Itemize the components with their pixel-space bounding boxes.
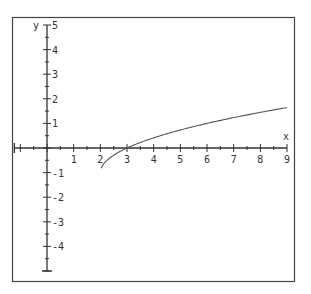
x-tick-label: 8 (257, 154, 263, 165)
y-tick-label: 3 (52, 69, 58, 80)
x-tick-label: 1 (71, 154, 77, 165)
y-tick-label: -3 (52, 217, 64, 228)
y-tick-label: 1 (52, 118, 58, 129)
x-tick-label: 9 (284, 154, 290, 165)
y-tick-label: 4 (52, 45, 58, 56)
y-tick-label: 5 (52, 20, 58, 31)
x-tick-label: 2 (97, 154, 103, 165)
x-tick-label: 5 (177, 154, 183, 165)
x-axis-label: x (283, 131, 289, 142)
y-tick-label: 2 (52, 94, 58, 105)
function-graph: 12345678954321-1-2-3-4 x y (0, 0, 311, 294)
x-tick-label: 7 (231, 154, 237, 165)
y-axis-label: y (33, 20, 39, 31)
y-tick-label: -1 (52, 168, 64, 179)
x-tick-label: 4 (151, 154, 157, 165)
x-tick-label: 6 (204, 154, 210, 165)
y-tick-label: -2 (52, 192, 64, 203)
x-tick-label: 3 (124, 154, 130, 165)
y-tick-label: -4 (52, 241, 64, 252)
